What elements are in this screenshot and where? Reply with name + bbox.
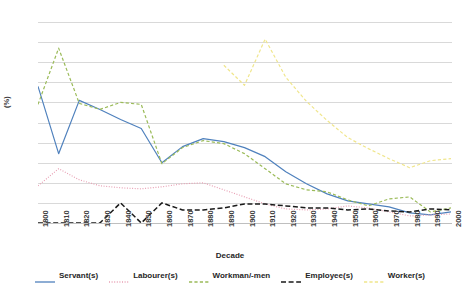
- x-axis-tick-label: 1920: [289, 197, 298, 227]
- plot-area: [38, 22, 452, 223]
- legend-item[interactable]: Employee(s): [281, 271, 353, 280]
- x-axis-tick-label: 1800: [41, 197, 50, 227]
- legend-item[interactable]: Workman/-men: [189, 271, 271, 280]
- legend-label: Labourer(s): [133, 271, 177, 280]
- x-axis-tick-label: 1870: [186, 197, 195, 227]
- x-axis-tick-label: 1830: [103, 197, 112, 227]
- legend-label: Servant(s): [59, 271, 98, 280]
- legend-label: Worker(s): [388, 271, 425, 280]
- x-axis-tick-label: 1990: [433, 197, 442, 227]
- legend-swatch-icon: [281, 272, 301, 280]
- x-axis-tick-label: 2000: [454, 197, 463, 227]
- series-line: [38, 86, 451, 215]
- legend-swatch-icon: [35, 272, 55, 280]
- x-axis-tick-label: 1840: [124, 197, 133, 227]
- x-axis-title: Decade: [0, 251, 460, 260]
- legend-item[interactable]: Servant(s): [35, 271, 98, 280]
- x-axis-tick-label: 1900: [248, 197, 257, 227]
- legend-item[interactable]: Labourer(s): [109, 271, 177, 280]
- x-axis-tick-label: 1860: [165, 197, 174, 227]
- series-line: [38, 169, 451, 216]
- x-axis-tick-label: 1910: [268, 197, 277, 227]
- x-axis-tick-label: 1950: [351, 197, 360, 227]
- x-axis-tick-label: 1850: [144, 197, 153, 227]
- x-axis-tick-label: 1970: [392, 197, 401, 227]
- series-line: [224, 39, 451, 168]
- x-axis-tick-label: 1980: [413, 197, 422, 227]
- legend-item[interactable]: Worker(s): [364, 271, 425, 280]
- x-axis-tick-label: 1930: [309, 197, 318, 227]
- y-axis-title: (%): [2, 96, 11, 108]
- chart-lines: [38, 22, 452, 223]
- x-axis-tick-label: 1890: [227, 197, 236, 227]
- x-axis-tick-label: 1960: [371, 197, 380, 227]
- series-line: [38, 203, 451, 223]
- x-axis-tick-label: 1820: [82, 197, 91, 227]
- legend-label: Workman/-men: [213, 271, 271, 280]
- legend-label: Employee(s): [305, 271, 353, 280]
- x-axis-tick-label: 1810: [62, 197, 71, 227]
- gridline: [38, 223, 452, 224]
- x-axis-tick-label: 1880: [206, 197, 215, 227]
- legend-swatch-icon: [109, 272, 129, 280]
- x-axis-tick-label: 1940: [330, 197, 339, 227]
- chart-legend: Servant(s)Labourer(s)Workman/-menEmploye…: [0, 271, 460, 280]
- legend-swatch-icon: [364, 272, 384, 280]
- legend-swatch-icon: [189, 272, 209, 280]
- series-line: [38, 48, 451, 212]
